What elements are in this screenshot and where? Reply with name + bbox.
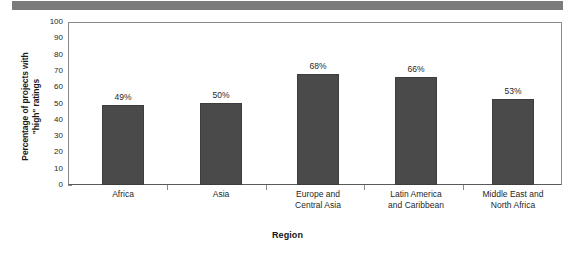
bar-value-asia: 50% — [190, 91, 252, 100]
y-tick-label-30: 30 — [36, 132, 63, 140]
top-decorative-banner — [12, 1, 563, 10]
bar-asia[interactable] — [200, 103, 242, 185]
x-category-europe-line-2: Central Asia — [268, 200, 368, 211]
x-category-europe-line-1: Europe and — [268, 189, 368, 200]
x-category-label-asia: Asia — [171, 189, 271, 200]
y-tick-label-90: 90 — [36, 34, 63, 42]
y-axis-title-line-1: Percentage of projects with — [20, 19, 31, 194]
x-axis-title: Region — [0, 230, 575, 240]
x-category-label-latin-america-and-caribbean: Latin America and Caribbean — [366, 189, 466, 211]
x-category-latin-line-1: Latin America — [366, 189, 466, 200]
y-tick-label-40: 40 — [36, 116, 63, 124]
x-category-africa-line-1: Africa — [73, 189, 173, 200]
x-category-latin-line-2: and Caribbean — [366, 200, 466, 211]
x-category-middle-east-line-2: North Africa — [463, 200, 563, 211]
bar-africa[interactable] — [102, 105, 144, 185]
bar-value-latin-america-and-caribbean: 66% — [385, 65, 447, 74]
y-tick-label-70: 70 — [36, 67, 63, 75]
bar-latin-america-and-caribbean[interactable] — [395, 77, 437, 185]
bar-europe-and-central-asia[interactable] — [297, 74, 339, 185]
x-category-asia-line-1: Asia — [171, 189, 271, 200]
x-category-label-africa: Africa — [73, 189, 173, 200]
y-tick-label-20: 20 — [36, 148, 63, 156]
bar-middle-east-and-north-africa[interactable] — [492, 99, 534, 185]
bar-value-africa: 49% — [92, 93, 154, 102]
y-tick-label-50: 50 — [36, 100, 63, 108]
x-category-middle-east-line-1: Middle East and — [463, 189, 563, 200]
y-tick-label-80: 80 — [36, 51, 63, 59]
y-tick-label-10: 10 — [36, 165, 63, 173]
y-tick-label-0: 0 — [36, 181, 63, 189]
bar-value-europe-and-central-asia: 68% — [287, 62, 349, 71]
y-axis-tick-labels: 100 90 80 70 60 50 40 30 20 10 0 — [36, 0, 63, 255]
x-category-label-middle-east-and-north-africa: Middle East and North Africa — [463, 189, 563, 211]
y-tick-label-60: 60 — [36, 83, 63, 91]
bar-value-middle-east-and-north-africa: 53% — [482, 87, 544, 96]
bar-chart-figure: Percentage of projects with "high" ratin… — [0, 0, 575, 255]
y-tick-mark-0 — [68, 185, 72, 186]
x-category-label-europe-and-central-asia: Europe and Central Asia — [268, 189, 368, 211]
y-tick-label-100: 100 — [36, 18, 63, 26]
